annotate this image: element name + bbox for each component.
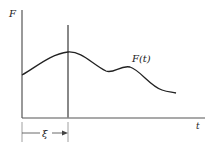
function-curve	[22, 52, 176, 93]
interval-label: ξ	[42, 128, 48, 139]
curve-label: F(t)	[131, 53, 151, 64]
y-axis-label: F	[8, 8, 17, 19]
diagram-canvas: F t F(t) ξ	[0, 0, 210, 151]
x-axis-label: t	[196, 121, 200, 131]
arrow-right-icon	[62, 131, 68, 136]
